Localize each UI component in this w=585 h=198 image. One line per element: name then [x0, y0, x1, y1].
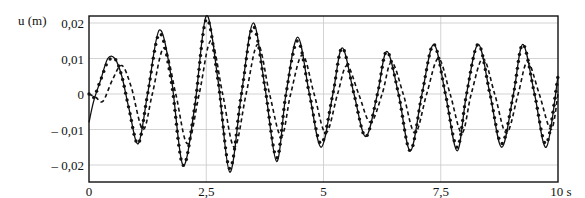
x-tick-label: 7,5 [433, 184, 449, 198]
x-tick-label: 5 [320, 184, 327, 198]
y-tick-label: 0,02 [61, 16, 84, 31]
y-tick-label: 0,01 [61, 52, 84, 67]
x-tick-label: 2,5 [198, 184, 214, 198]
y-tick-label: – 0,01 [51, 123, 85, 138]
y-tick-labels: 0,020,010– 0,01– 0,02 [51, 16, 85, 173]
grid-lines [89, 16, 558, 182]
y-tick-label: – 0,02 [51, 158, 85, 173]
y-tick-label: 0 [78, 87, 85, 102]
displacement-chart: u (m) 0,020,010– 0,01– 0,02 02,557,510 s [0, 0, 585, 198]
x-tick-label: 10 s [550, 184, 571, 198]
x-tick-labels: 02,557,510 s [86, 184, 572, 198]
x-tick-label: 0 [86, 184, 93, 198]
y-axis-label: u (m) [18, 13, 47, 28]
